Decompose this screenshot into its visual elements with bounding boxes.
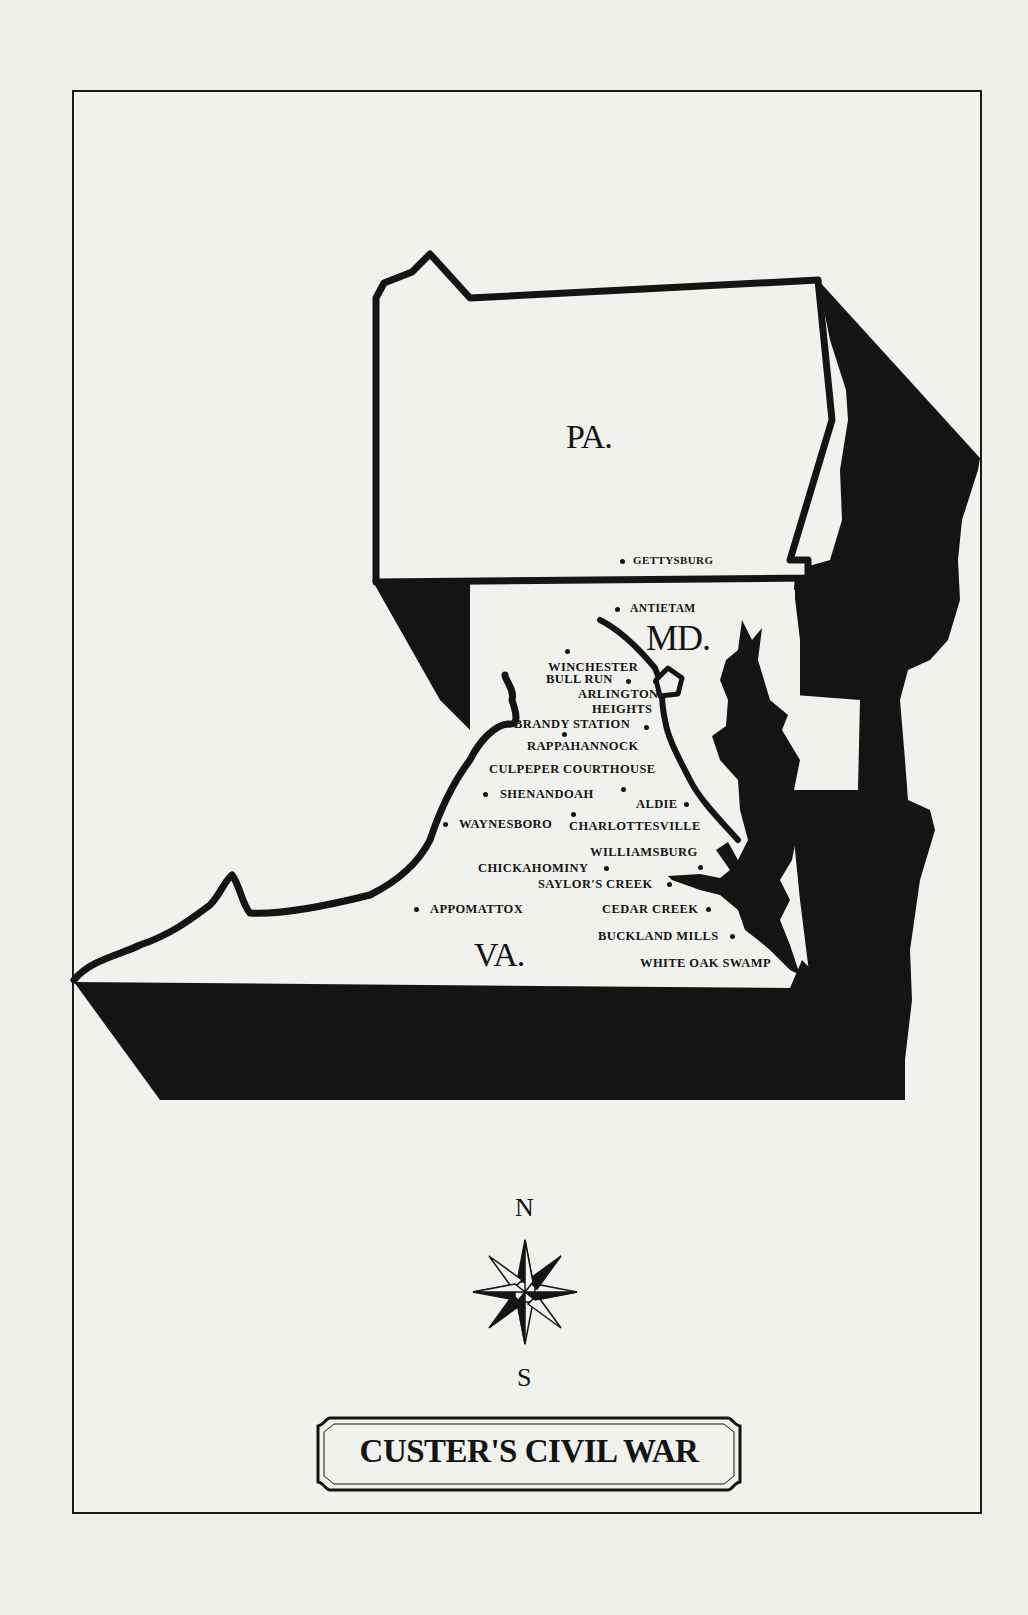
town-dot-waynesboro[interactable]: [443, 822, 448, 827]
town-dot-williamsburg[interactable]: [698, 865, 703, 870]
town-label-saylors-creek: SAYLOR'S CREEK: [538, 878, 653, 891]
town-label-aldie: ALDIE: [636, 798, 678, 811]
town-label-heights: HEIGHTS: [592, 703, 652, 716]
town-label-gettysburg: GETTYSBURG: [633, 555, 713, 566]
town-label-rappahannock: RAPPAHANNOCK: [527, 740, 639, 753]
state-label-pa: PA.: [566, 420, 612, 454]
town-dot-antietam[interactable]: [615, 607, 620, 612]
town-dot-chickahominy[interactable]: [604, 866, 609, 871]
town-label-white-oak-swamp: WHITE OAK SWAMP: [640, 957, 771, 970]
virginia-border: [74, 675, 516, 980]
town-dot-shenandoah[interactable]: [483, 792, 488, 797]
town-dot-saylors-creek[interactable]: [667, 882, 672, 887]
town-label-brandy-station: BRANDY STATION: [514, 718, 630, 731]
compass-south-label: S: [517, 1365, 531, 1391]
town-dot-cedar-creek[interactable]: [706, 907, 711, 912]
town-label-williamsburg: WILLIAMSBURG: [590, 846, 698, 859]
map-graphic: [0, 0, 1028, 1615]
town-label-culpeper: CULPEPER COURTHOUSE: [489, 763, 656, 776]
md-panhandle-shadow: [372, 580, 470, 730]
town-dot-white-oak-swamp[interactable]: [777, 945, 782, 950]
town-label-buckland-mills: BUCKLAND MILLS: [598, 930, 719, 943]
town-dot-rappahannock[interactable]: [562, 732, 567, 737]
town-dot-aldie[interactable]: [684, 802, 689, 807]
town-dot-arlington[interactable]: [653, 679, 658, 684]
town-label-waynesboro: WAYNESBORO: [459, 818, 552, 831]
town-dot-winchester[interactable]: [565, 649, 570, 654]
town-dot-charlottesville[interactable]: [571, 812, 576, 817]
compass-rose: [473, 1240, 577, 1344]
town-label-chickahominy: CHICKAHOMINY: [478, 862, 588, 875]
town-label-appomattox: APPOMATTOX: [430, 903, 523, 916]
town-dot-culpeper[interactable]: [621, 787, 626, 792]
state-label-va: VA.: [474, 938, 524, 972]
town-dot-gettysburg[interactable]: [620, 559, 625, 564]
state-label-md: MD.: [646, 620, 710, 656]
town-label-arlington: ARLINGTON: [578, 688, 658, 701]
map-title-box: CUSTER'S CIVIL WAR: [316, 1412, 742, 1490]
town-dot-buckland-mills[interactable]: [730, 934, 735, 939]
town-label-bull-run: BULL RUN: [546, 673, 613, 686]
map-title: CUSTER'S CIVIL WAR: [316, 1412, 742, 1490]
town-label-shenandoah: SHENANDOAH: [500, 788, 594, 801]
town-label-antietam: ANTIETAM: [630, 603, 696, 615]
compass-north-label: N: [515, 1195, 534, 1221]
town-label-cedar-creek: CEDAR CREEK: [602, 903, 698, 916]
town-dot-appomattox[interactable]: [414, 907, 419, 912]
southern-base-slab: [74, 960, 905, 1100]
town-label-charlottesville: CHARLOTTESVILLE: [569, 820, 701, 833]
town-dot-bull-run[interactable]: [626, 679, 631, 684]
town-dot-brandy-station[interactable]: [644, 725, 649, 730]
